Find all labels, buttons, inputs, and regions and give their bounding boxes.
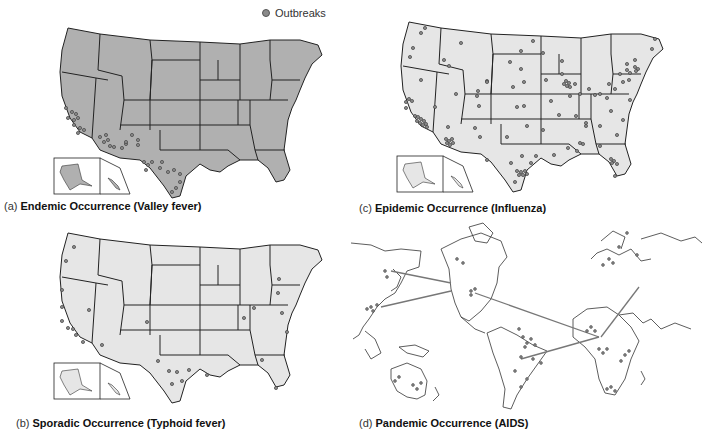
caption-title: Endemic Occurrence (Valley fever) (21, 200, 202, 212)
caption-title: Sporadic Occurrence (Typhoid fever) (33, 417, 226, 429)
panel-sporadic-map: (b) Sporadic Occurrence (Typhoid fever) (0, 219, 351, 439)
caption-endemic: (a) Endemic Occurrence (Valley fever) (4, 200, 202, 212)
caption-title: Pandemic Occurrence (AIDS) (376, 417, 529, 429)
caption-letter: (c) (359, 202, 372, 214)
world-map-pandemic (351, 219, 702, 419)
caption-title: Epidemic Occurrence (Influenza) (375, 202, 546, 214)
panel-epidemic-map: (c) Epidemic Occurrence (Influenza) (351, 0, 702, 220)
caption-pandemic: (d) Pandemic Occurrence (AIDS) (359, 417, 528, 429)
caption-sporadic: (b) Sporadic Occurrence (Typhoid fever) (16, 417, 225, 429)
caption-letter: (a) (4, 200, 17, 212)
caption-letter: (b) (16, 417, 29, 429)
us-map-sporadic (0, 219, 351, 419)
caption-letter: (d) (359, 417, 372, 429)
us-map-epidemic (351, 0, 702, 200)
panel-pandemic-map: (d) Pandemic Occurrence (AIDS) (351, 219, 702, 439)
us-map-endemic (0, 0, 351, 200)
caption-epidemic: (c) Epidemic Occurrence (Influenza) (359, 202, 546, 214)
panel-endemic-map: (a) Endemic Occurrence (Valley fever) (0, 0, 351, 220)
